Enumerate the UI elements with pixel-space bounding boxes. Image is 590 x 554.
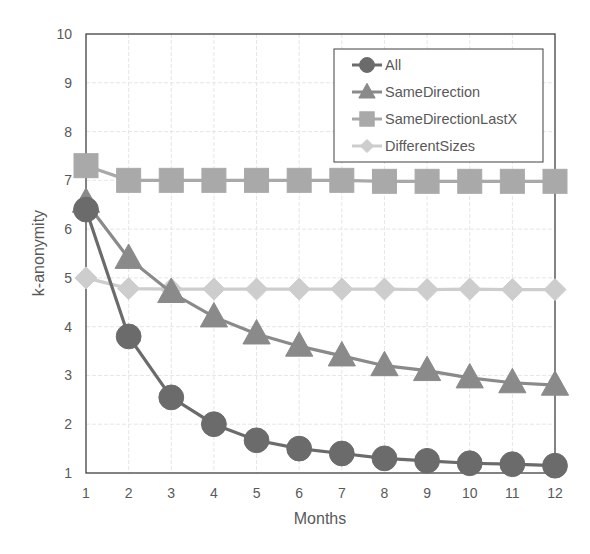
x-tick-label: 7 <box>338 485 346 501</box>
y-tick-label: 4 <box>64 319 72 335</box>
legend-label: DifferentSizes <box>385 138 475 154</box>
y-tick-label: 2 <box>64 416 72 432</box>
diamond-marker <box>118 278 140 300</box>
x-axis-ticks: 123456789101112 <box>82 485 563 501</box>
y-tick-label: 6 <box>64 221 72 237</box>
legend-label: SameDirection <box>385 84 480 100</box>
chart: 12345678910 123456789101112 Months k-ano… <box>0 0 590 554</box>
square-marker <box>500 169 524 193</box>
square-marker <box>202 168 226 192</box>
y-tick-label: 5 <box>64 270 72 286</box>
circle-marker <box>159 385 184 410</box>
square-marker <box>543 169 567 193</box>
y-tick-label: 9 <box>64 75 72 91</box>
series-All <box>74 197 568 478</box>
circle-marker <box>202 412 227 437</box>
x-axis-label: Months <box>294 510 346 527</box>
circle-marker <box>287 436 312 461</box>
circle-marker <box>244 428 269 453</box>
square-marker <box>360 112 374 126</box>
diamond-marker <box>373 278 395 300</box>
diamond-marker <box>246 278 268 300</box>
square-marker <box>245 168 269 192</box>
diamond-marker <box>501 279 523 301</box>
circle-marker <box>329 441 354 466</box>
circle-marker <box>116 324 141 349</box>
y-tick-label: 7 <box>64 172 72 188</box>
triangle-marker <box>541 371 568 395</box>
diamond-marker <box>203 278 225 300</box>
diamond-marker <box>75 267 97 289</box>
y-axis-ticks: 12345678910 <box>56 26 72 481</box>
square-marker <box>117 168 141 192</box>
y-tick-label: 1 <box>64 465 72 481</box>
legend: AllSameDirectionSameDirectionLastXDiffer… <box>334 49 543 162</box>
legend-label: SameDirectionLastX <box>385 111 517 127</box>
diamond-marker <box>331 278 353 300</box>
x-tick-label: 3 <box>167 485 175 501</box>
series-line <box>86 210 555 466</box>
x-tick-label: 1 <box>82 485 90 501</box>
circle-marker <box>457 451 482 476</box>
diamond-marker <box>288 278 310 300</box>
x-tick-label: 2 <box>125 485 133 501</box>
square-marker <box>330 168 354 192</box>
square-marker <box>74 154 98 178</box>
circle-marker <box>360 58 375 73</box>
x-tick-label: 9 <box>423 485 431 501</box>
x-tick-label: 10 <box>462 485 478 501</box>
diamond-marker <box>459 278 481 300</box>
circle-marker <box>500 452 525 477</box>
square-marker <box>287 168 311 192</box>
y-axis-label: k-anonymity <box>30 210 47 296</box>
x-tick-label: 8 <box>381 485 389 501</box>
data-series <box>72 154 568 478</box>
triangle-marker <box>200 303 227 327</box>
y-tick-label: 3 <box>64 367 72 383</box>
square-marker <box>372 169 396 193</box>
x-tick-label: 12 <box>547 485 563 501</box>
square-marker <box>159 168 183 192</box>
x-tick-label: 5 <box>253 485 261 501</box>
circle-marker <box>74 197 99 222</box>
circle-marker <box>543 453 568 478</box>
square-marker <box>415 169 439 193</box>
legend-label: All <box>385 57 401 73</box>
x-tick-label: 6 <box>295 485 303 501</box>
y-tick-label: 10 <box>56 26 72 42</box>
x-tick-label: 11 <box>505 485 520 501</box>
series-DifferentSizes <box>75 267 566 301</box>
square-marker <box>458 169 482 193</box>
circle-marker <box>415 448 440 473</box>
x-tick-label: 4 <box>210 485 218 501</box>
series-line <box>86 202 555 385</box>
diamond-marker <box>544 279 566 301</box>
y-tick-label: 8 <box>64 124 72 140</box>
line-chart: 12345678910 123456789101112 Months k-ano… <box>0 0 590 554</box>
series-line <box>86 166 555 182</box>
diamond-marker <box>416 279 438 301</box>
circle-marker <box>372 446 397 471</box>
